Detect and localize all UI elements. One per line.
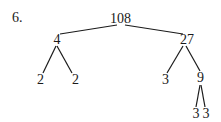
node-9: 9 [197, 70, 204, 85]
node-3-b: 3 [203, 106, 210, 121]
edge-4-right [57, 46, 72, 73]
edge-27-right [186, 46, 200, 71]
node-2-b: 2 [72, 72, 79, 87]
node-27: 27 [180, 32, 194, 47]
edge-4-left [43, 46, 56, 73]
node-3: 3 [162, 72, 169, 87]
root-node: 108 [110, 11, 131, 26]
edge-root-right [125, 25, 183, 34]
problem-number: 6. [12, 10, 23, 25]
factor-tree-diagram: 6. 108 4 27 2 2 3 9 3 3 [0, 0, 221, 122]
factor-tree-svg: 6. 108 4 27 2 2 3 9 3 3 [0, 0, 221, 122]
edge-9-left [196, 85, 200, 107]
node-4: 4 [54, 32, 61, 47]
node-2-a: 2 [37, 72, 44, 87]
node-3-a: 3 [193, 106, 200, 121]
edge-root-left [60, 25, 117, 34]
edge-27-left [167, 46, 183, 73]
edge-9-right [201, 85, 205, 107]
